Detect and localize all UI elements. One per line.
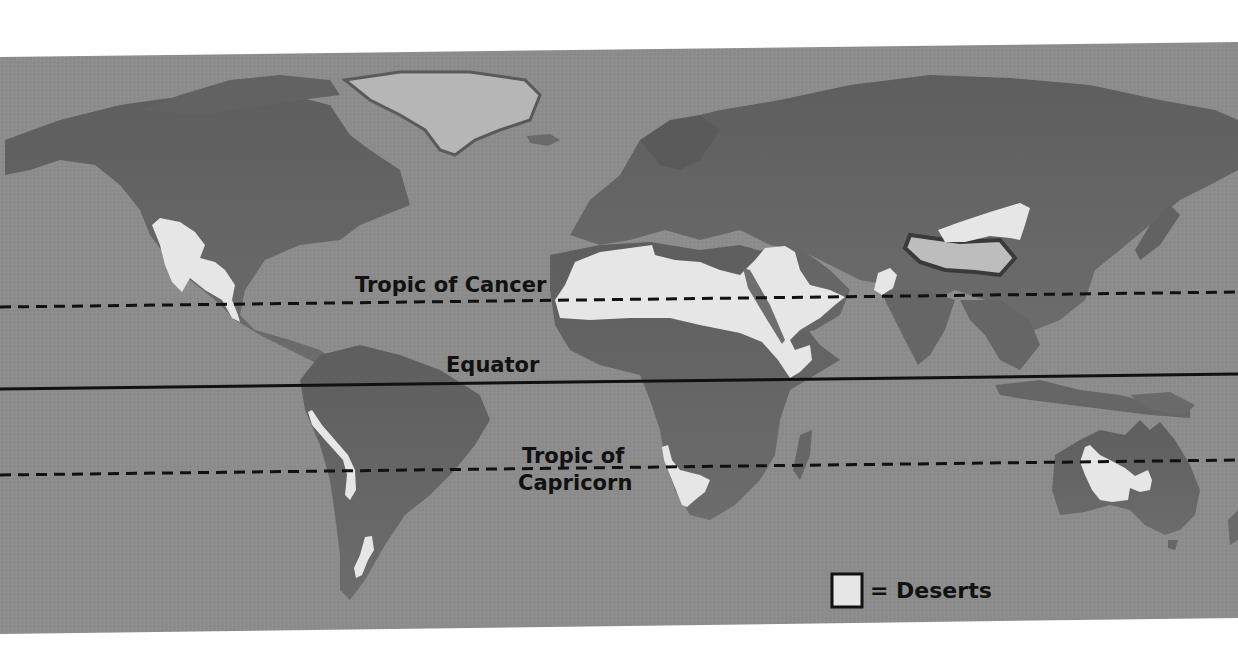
equator-label: Equator: [446, 353, 540, 377]
tropic-of-capricorn-label-line1: Tropic of: [522, 444, 625, 468]
tropic-of-capricorn-label-line2: Capricorn: [518, 471, 632, 495]
legend-text: = Deserts: [870, 578, 992, 603]
legend: = Deserts: [832, 574, 992, 607]
tropic-of-cancer-label: Tropic of Cancer: [355, 273, 547, 297]
desert-swatch: [832, 574, 862, 607]
map-canvas: Tropic of Cancer Equator Tropic of Capri…: [0, 0, 1238, 652]
world-desert-map: Tropic of Cancer Equator Tropic of Capri…: [0, 0, 1238, 652]
